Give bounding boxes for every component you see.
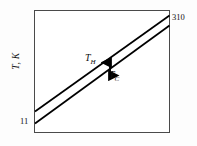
hot-stream-label: TH <box>85 52 96 66</box>
tick-label-bottom-temperature: 11 <box>20 116 28 126</box>
cold-stream-line <box>35 26 170 124</box>
tick-label-top-temperature: 310 <box>172 12 185 22</box>
y-axis-label: T, K <box>11 37 21 85</box>
figure-screenshot: T, K 310 11 TH TC <box>0 0 197 146</box>
cold-stream-subscript: C <box>115 75 120 83</box>
hot-stream-subscript: H <box>91 58 96 66</box>
hot-stream-line <box>35 16 170 112</box>
cold-stream-label: TC <box>109 69 119 83</box>
plot-drawing <box>0 0 197 146</box>
